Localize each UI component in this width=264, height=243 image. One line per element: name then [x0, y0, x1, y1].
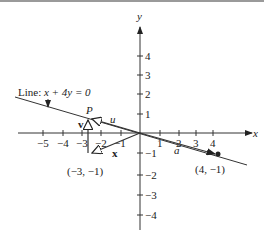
vector-u	[92, 119, 140, 133]
projection-diagram: x y −5 −4 −3 −2 −1 1 2 3 4 4 3	[0, 0, 264, 243]
point-4-neg1	[216, 152, 221, 157]
y-axis-label: y	[136, 10, 142, 22]
svg-text:3: 3	[193, 137, 199, 149]
point-neg3-neg1-label: (−3, −1)	[67, 165, 104, 178]
svg-text:−3: −3	[145, 189, 157, 201]
svg-text:−2: −2	[145, 169, 157, 181]
svg-text:3: 3	[145, 69, 151, 81]
svg-text:−3: −3	[76, 137, 88, 149]
line-equation-label: Line: x + 4y = 0	[18, 86, 91, 98]
svg-text:−1: −1	[145, 147, 157, 159]
vector-a-label: a	[174, 144, 180, 156]
svg-text:4: 4	[145, 50, 151, 62]
svg-text:−5: −5	[37, 137, 49, 149]
vector-x-label: x	[112, 147, 118, 159]
svg-text:2: 2	[145, 88, 151, 100]
point-P-label: P	[85, 104, 93, 116]
vector-v-label: v	[78, 118, 84, 130]
svg-text:1: 1	[145, 108, 151, 120]
vector-u-label: u	[110, 113, 116, 125]
point-4-neg1-label: (4, −1)	[195, 163, 225, 176]
svg-text:4: 4	[210, 137, 216, 149]
svg-text:−4: −4	[145, 209, 157, 221]
svg-text:−4: −4	[57, 137, 69, 149]
x-axis-label: x	[252, 127, 258, 139]
